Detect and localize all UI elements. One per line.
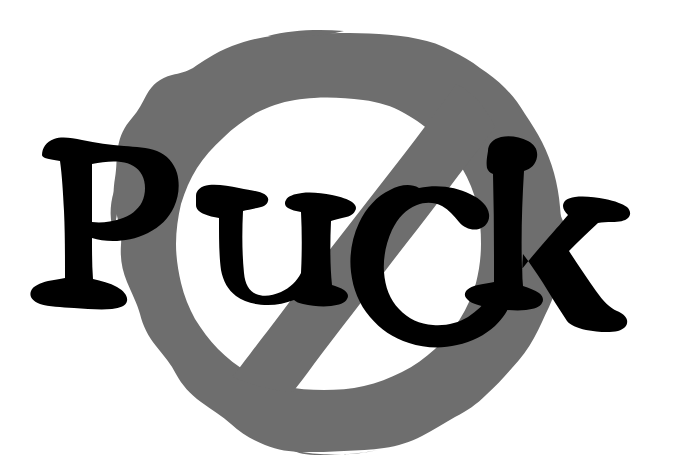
logo-canvas: Puck Q Puck logo: the word "Puck" in rou… xyxy=(0,0,680,475)
logo-artwork xyxy=(0,0,680,475)
